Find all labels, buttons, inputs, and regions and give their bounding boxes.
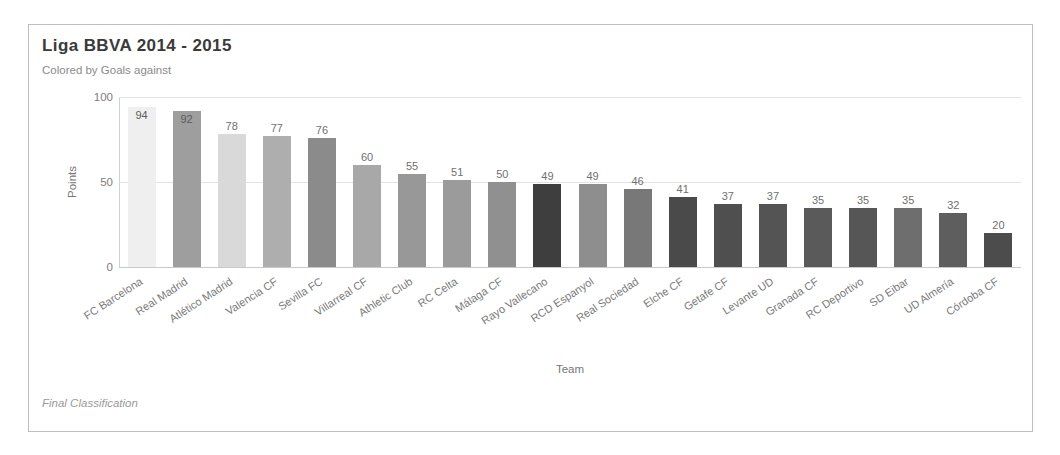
bar-value-label: 50 bbox=[496, 169, 508, 180]
bar[interactable]: 94 bbox=[128, 107, 156, 267]
visualization-frame: Liga BBVA 2014 - 2015 Colored by Goals a… bbox=[28, 24, 1033, 432]
bar[interactable]: 92 bbox=[173, 111, 201, 267]
bar[interactable]: 35 bbox=[804, 208, 832, 268]
bar[interactable]: 60 bbox=[353, 165, 381, 267]
bar-value-label: 51 bbox=[451, 167, 463, 178]
bar-value-label: 35 bbox=[812, 195, 824, 206]
bar-value-label: 49 bbox=[541, 171, 553, 182]
bar[interactable]: 41 bbox=[669, 197, 697, 267]
x-axis-tick-labels: FC BarcelonaReal MadridAtlético MadridVa… bbox=[119, 275, 1021, 359]
bar[interactable]: 35 bbox=[849, 208, 877, 268]
bar[interactable]: 78 bbox=[218, 134, 246, 267]
bar[interactable]: 76 bbox=[308, 138, 336, 267]
bar-value-label: 76 bbox=[316, 125, 328, 136]
bar-value-label: 78 bbox=[226, 121, 238, 132]
bar-value-label: 20 bbox=[992, 220, 1004, 231]
y-axis-tick-labels: 050100 bbox=[75, 97, 113, 267]
y-tick-label: 50 bbox=[79, 176, 113, 188]
bar[interactable]: 20 bbox=[984, 233, 1012, 267]
y-tick-label: 0 bbox=[79, 261, 113, 273]
bar[interactable]: 35 bbox=[894, 208, 922, 268]
bar-value-label: 35 bbox=[902, 195, 914, 206]
bar[interactable]: 46 bbox=[624, 189, 652, 267]
footer-caption: Final Classification bbox=[42, 397, 138, 409]
gridline bbox=[119, 267, 1021, 268]
bar[interactable]: 37 bbox=[714, 204, 742, 267]
bar[interactable]: 49 bbox=[533, 184, 561, 267]
bar-value-label: 41 bbox=[677, 184, 689, 195]
plot-area: 9492787776605551504949464137373535353220 bbox=[119, 97, 1021, 267]
bar[interactable]: 50 bbox=[488, 182, 516, 267]
bar[interactable]: 32 bbox=[939, 213, 967, 267]
x-tick-label: Elche CF bbox=[641, 275, 685, 310]
bar-value-label: 60 bbox=[361, 152, 373, 163]
bar-value-label: 46 bbox=[632, 176, 644, 187]
y-tick-label: 100 bbox=[79, 91, 113, 103]
bar-value-label: 32 bbox=[947, 200, 959, 211]
bar-value-label: 37 bbox=[722, 191, 734, 202]
chart-subtitle: Colored by Goals against bbox=[42, 64, 171, 76]
gridline bbox=[119, 182, 1021, 183]
x-tick-label: FC Barcelona bbox=[81, 275, 144, 322]
bar-value-label: 77 bbox=[271, 123, 283, 134]
bar[interactable]: 49 bbox=[579, 184, 607, 267]
gridline bbox=[119, 97, 1021, 98]
bar-value-label: 92 bbox=[181, 114, 193, 125]
bar[interactable]: 51 bbox=[443, 180, 471, 267]
chart-title: Liga BBVA 2014 - 2015 bbox=[42, 36, 232, 56]
bar-value-label: 49 bbox=[586, 171, 598, 182]
bar-value-label: 94 bbox=[135, 110, 147, 121]
bar-value-label: 35 bbox=[857, 195, 869, 206]
bar-value-label: 37 bbox=[767, 191, 779, 202]
bar[interactable]: 77 bbox=[263, 136, 291, 267]
bar-value-label: 55 bbox=[406, 161, 418, 172]
x-axis-title: Team bbox=[119, 363, 1021, 375]
bar[interactable]: 37 bbox=[759, 204, 787, 267]
bar[interactable]: 55 bbox=[398, 174, 426, 268]
